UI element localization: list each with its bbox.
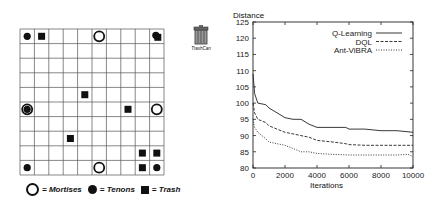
trash-legend-icon — [141, 186, 149, 194]
trash-legend-label: = Trash — [152, 185, 181, 194]
tenon-item — [152, 32, 159, 39]
y-tick-label: 115 — [236, 50, 249, 59]
y-tick-label: 90 — [240, 132, 249, 141]
series-line-ant-vibra — [253, 119, 413, 156]
x-tick-label: 6000 — [340, 171, 358, 180]
trash-item — [125, 106, 132, 113]
tenon-item — [24, 164, 31, 171]
trashcan: TrashCan — [186, 24, 216, 58]
mortise-item — [94, 163, 104, 173]
trash-item — [153, 150, 160, 157]
x-tick-label: 8000 — [372, 171, 390, 180]
tenon-item — [24, 106, 31, 113]
trash-item — [67, 135, 74, 142]
x-tick-label: 2000 — [276, 171, 294, 180]
series-line-dql — [253, 103, 413, 145]
mortise-item — [152, 104, 162, 114]
tenon-item — [153, 164, 160, 171]
trash-item — [81, 91, 88, 98]
y-tick-label: 110 — [236, 67, 249, 76]
grid-legend: = Mortises = Tenons = Trash — [26, 183, 180, 196]
series-line-q-learning — [253, 74, 413, 132]
assembly-grid-panel: = Mortises = Tenons = Trash TrashCan — [0, 0, 222, 206]
trash-item — [139, 150, 146, 157]
distance-chart-panel: 8085909510010511011512012502000400060008… — [222, 0, 444, 206]
trash-can-icon — [186, 24, 216, 46]
x-tick-label: 10000 — [402, 171, 425, 180]
tenon-legend-icon — [88, 185, 97, 194]
tenon-item — [24, 33, 31, 40]
mortises-legend-label: = Mortises — [42, 185, 82, 194]
legend-label: Ant-ViBRA — [334, 46, 373, 55]
x-axis-title: Iterations — [310, 181, 343, 190]
trash-item — [139, 164, 146, 171]
tenons-legend-label: = Tenons — [100, 185, 135, 194]
y-tick-label: 120 — [236, 34, 250, 43]
mortise-legend-icon — [26, 183, 39, 196]
y-tick-label: 100 — [236, 99, 250, 108]
y-tick-label: 95 — [240, 115, 249, 124]
x-tick-label: 4000 — [308, 171, 326, 180]
x-tick-label: 0 — [251, 171, 256, 180]
y-tick-label: 85 — [240, 148, 249, 157]
y-axis-title: Distance — [233, 11, 264, 20]
y-tick-label: 80 — [240, 164, 249, 173]
mortise-item — [94, 31, 104, 41]
trashcan-label: TrashCan — [186, 46, 216, 51]
distance-chart: 8085909510010511011512012502000400060008… — [222, 0, 444, 206]
trash-item — [38, 33, 45, 40]
y-tick-label: 105 — [236, 83, 250, 92]
